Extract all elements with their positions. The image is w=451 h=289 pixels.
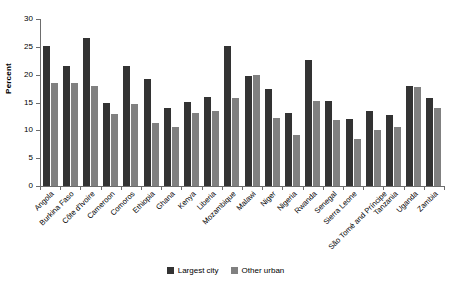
x-axis-tick xyxy=(80,186,81,190)
x-axis-tick xyxy=(60,186,61,190)
bar-largest-city xyxy=(63,66,70,186)
bar-group xyxy=(385,19,405,186)
y-axis-tick-label: 0 xyxy=(13,181,33,190)
bar-group xyxy=(284,19,304,186)
x-axis-tick xyxy=(222,186,223,190)
x-axis-tick xyxy=(242,186,243,190)
bar-group xyxy=(345,19,365,186)
bar-group xyxy=(365,19,385,186)
y-axis-tick-label: 25 xyxy=(13,42,33,51)
bar-other-urban xyxy=(131,104,138,186)
y-axis-tick: 10 xyxy=(36,130,40,131)
y-axis-tick-label: 20 xyxy=(13,70,33,79)
bar-group xyxy=(304,19,324,186)
y-axis-tick: 30 xyxy=(36,19,40,20)
y-axis-tick-label: 30 xyxy=(13,14,33,23)
x-axis-tick xyxy=(404,186,405,190)
bar-largest-city xyxy=(164,108,171,186)
y-axis-title: Percent xyxy=(4,49,13,109)
x-axis-tick xyxy=(383,186,384,190)
legend-item[interactable]: Largest city xyxy=(167,266,219,275)
x-axis-tick xyxy=(161,186,162,190)
bar-largest-city xyxy=(305,60,312,186)
bar-largest-city xyxy=(184,102,191,186)
bar-largest-city xyxy=(103,103,110,187)
bar-other-urban xyxy=(172,127,179,186)
bar-largest-city xyxy=(144,79,151,186)
bar-group xyxy=(62,19,82,186)
bar-largest-city xyxy=(346,119,353,186)
bar-largest-city xyxy=(224,46,231,186)
bar-chart: Percent 051015202530 AngolaBurkina FasoC… xyxy=(0,0,451,289)
bar-group xyxy=(163,19,183,186)
bar-largest-city xyxy=(265,89,272,186)
bar-other-urban xyxy=(354,139,361,186)
bar-other-urban xyxy=(212,111,219,186)
bar-largest-city xyxy=(426,98,433,186)
x-axis-tick xyxy=(262,186,263,190)
x-axis-tick xyxy=(181,186,182,190)
bar-other-urban xyxy=(111,114,118,186)
bar-other-urban xyxy=(152,123,159,186)
bar-largest-city xyxy=(204,97,211,186)
chart-legend: Largest cityOther urban xyxy=(0,266,451,275)
bar-group xyxy=(223,19,243,186)
bar-other-urban xyxy=(192,113,199,186)
bar-other-urban xyxy=(394,127,401,186)
bar-group xyxy=(122,19,142,186)
bar-group xyxy=(183,19,203,186)
legend-item[interactable]: Other urban xyxy=(231,266,285,275)
bar-group xyxy=(425,19,445,186)
bar-largest-city xyxy=(83,38,90,186)
bar-group xyxy=(143,19,163,186)
bar-largest-city xyxy=(366,111,373,186)
y-axis-tick: 25 xyxy=(36,47,40,48)
bar-group xyxy=(102,19,122,186)
bar-other-urban xyxy=(333,120,340,186)
x-axis-tick xyxy=(323,186,324,190)
bar-group xyxy=(82,19,102,186)
bar-other-urban xyxy=(293,135,300,186)
bar-other-urban xyxy=(434,108,441,186)
x-axis-tick xyxy=(141,186,142,190)
bar-group xyxy=(324,19,344,186)
bar-largest-city xyxy=(285,113,292,186)
bar-largest-city xyxy=(123,66,130,186)
x-axis-tick xyxy=(202,186,203,190)
x-axis-tick xyxy=(343,186,344,190)
x-axis-tick xyxy=(303,186,304,190)
legend-swatch-icon xyxy=(167,267,174,274)
bar-group xyxy=(42,19,62,186)
bar-group xyxy=(244,19,264,186)
x-axis-tick xyxy=(101,186,102,190)
bar-other-urban xyxy=(374,130,381,186)
x-axis-tick xyxy=(444,186,445,190)
bar-group xyxy=(203,19,223,186)
y-axis-tick-label: 15 xyxy=(13,98,33,107)
y-axis-tick-label: 5 xyxy=(13,153,33,162)
legend-label: Other urban xyxy=(242,266,285,275)
bar-other-urban xyxy=(51,83,58,186)
bar-other-urban xyxy=(313,101,320,186)
legend-label: Largest city xyxy=(178,266,219,275)
bar-other-urban xyxy=(232,98,239,186)
bar-largest-city xyxy=(325,101,332,186)
x-axis-tick xyxy=(121,186,122,190)
x-axis-tick xyxy=(40,186,41,190)
bar-group xyxy=(405,19,425,186)
y-axis-tick: 20 xyxy=(36,75,40,76)
x-axis-tick xyxy=(282,186,283,190)
bar-other-urban xyxy=(273,118,280,186)
bar-largest-city xyxy=(406,86,413,186)
x-axis-tick xyxy=(424,186,425,190)
bar-other-urban xyxy=(91,86,98,186)
bar-largest-city xyxy=(43,46,50,186)
bar-other-urban xyxy=(414,87,421,186)
bar-largest-city xyxy=(245,76,252,186)
plot-area: 051015202530 xyxy=(40,19,444,186)
y-axis-tick: 15 xyxy=(36,103,40,104)
bar-other-urban xyxy=(253,75,260,186)
bar-other-urban xyxy=(71,83,78,186)
y-axis-tick-label: 10 xyxy=(13,125,33,134)
x-axis-tick xyxy=(363,186,364,190)
